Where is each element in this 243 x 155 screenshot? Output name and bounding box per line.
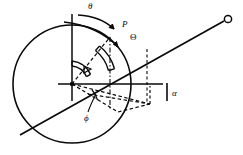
label-theta-small: θ [88,2,92,11]
label-phi: ϕ [84,114,89,123]
label-alpha: α [172,89,177,98]
node-circle-endpoint [224,15,231,22]
outer-band-tick-right [109,69,115,71]
arc-band-tick-right [87,74,91,76]
dashed-closing-segment [118,104,150,112]
phi-ray-upper [72,84,150,104]
long-ray-to-node [20,21,224,135]
phi-leader-line [88,96,95,112]
phi-ray-lower [72,84,118,112]
label-point-p: P [122,20,128,29]
label-theta-capital: Θ [130,33,137,42]
